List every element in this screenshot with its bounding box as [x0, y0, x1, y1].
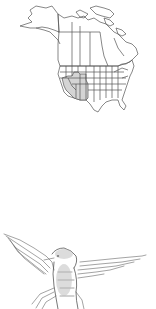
alaska-outline	[20, 6, 59, 32]
canada-outline	[58, 14, 138, 66]
range-map	[14, 2, 150, 120]
hummingbird-icon	[0, 228, 156, 309]
hummingbird-illustration	[0, 228, 156, 309]
north-america-map-icon	[14, 2, 150, 120]
